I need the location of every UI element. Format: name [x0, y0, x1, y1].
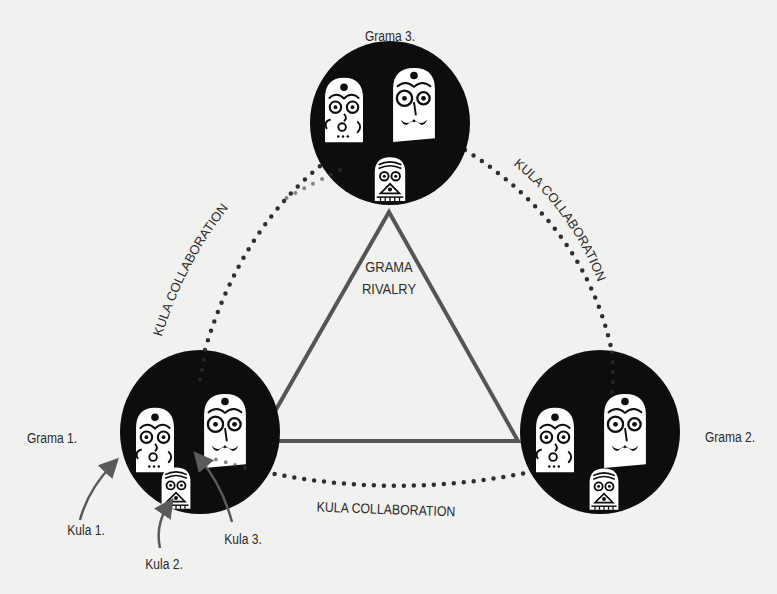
kula-collaboration-link-bottom	[255, 470, 525, 486]
grama-1-circle	[120, 350, 280, 514]
kula-collaboration-link-left	[205, 162, 325, 350]
mustached-mask-icon	[393, 68, 435, 142]
kula-2-label: Kula 2.	[145, 556, 182, 572]
grama-3-circle	[310, 41, 470, 205]
grama-rivalry-line2: RIVALRY	[362, 278, 416, 300]
grama-rivalry-label: GRAMA RIVALRY	[362, 256, 416, 300]
kula-collaboration-label-right: KULA COLLABORATION	[511, 156, 609, 284]
grama-3-label: Grama 3.	[365, 28, 415, 44]
kula-grama-diagram: KULA COLLABORATION KULA COLLABORATION Gr…	[0, 0, 777, 594]
grama-2-circle	[520, 350, 680, 514]
goddess-mask-icon	[325, 78, 363, 143]
small-mask-icon	[590, 468, 619, 509]
goddess-mask-icon	[536, 408, 574, 473]
kula-1-label: Kula 1.	[67, 522, 104, 538]
grama-rivalry-line1: GRAMA	[362, 256, 416, 278]
kula-collaboration-label-left: KULA COLLABORATION	[150, 200, 231, 338]
goddess-mask-icon	[136, 408, 174, 473]
mustached-mask-icon	[204, 394, 246, 468]
small-mask-icon	[162, 467, 191, 508]
grama-1-label: Grama 1.	[27, 430, 77, 446]
kula-1-arrow	[80, 465, 112, 520]
small-mask-icon	[375, 157, 405, 201]
grama-rivalry-triangle	[258, 212, 518, 441]
kula-3-label: Kula 3.	[224, 531, 261, 547]
grama-2-label: Grama 2.	[705, 429, 755, 445]
kula-2-arrow	[159, 506, 168, 548]
mustached-mask-icon	[604, 394, 646, 468]
